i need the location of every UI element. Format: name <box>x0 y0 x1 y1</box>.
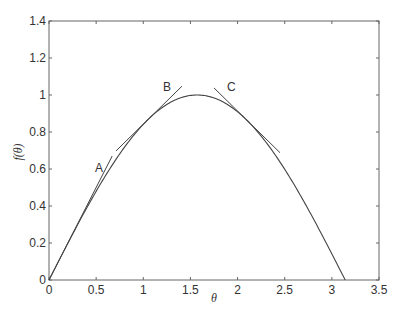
plot-area: 00.511.522.533.500.20.40.60.811.21.4 <box>29 14 387 297</box>
y-tick-label: 0.4 <box>29 199 46 213</box>
sine-curve <box>49 95 345 280</box>
x-tick-label: 2 <box>234 283 241 297</box>
y-tick-label: 0.8 <box>29 125 46 139</box>
y-tick-label: 1 <box>39 88 46 102</box>
x-tick-label: 1 <box>140 283 147 297</box>
tangent-line-c <box>214 88 280 153</box>
x-tick-label: 3.5 <box>371 283 388 297</box>
sine-tangent-chart: 00.511.522.533.500.20.40.60.811.21.4 θ f… <box>0 0 404 322</box>
x-tick-label: 2.5 <box>276 283 293 297</box>
annotation-b: B <box>163 80 171 94</box>
plot-frame <box>49 21 379 280</box>
y-tick-label: 0 <box>39 273 46 287</box>
x-tick-label: 1.5 <box>182 283 199 297</box>
y-axis-label: f(θ) <box>11 143 25 160</box>
y-tick-label: 1.4 <box>29 14 46 28</box>
annotation-a: A <box>95 161 103 175</box>
x-tick-label: 0 <box>46 283 53 297</box>
x-axis-label: θ <box>211 291 217 305</box>
annotation-c: C <box>227 80 236 94</box>
y-tick-label: 0.6 <box>29 162 46 176</box>
tangent-line-b <box>116 86 182 151</box>
x-tick-label: 0.5 <box>88 283 105 297</box>
x-tick-label: 3 <box>329 283 336 297</box>
y-tick-label: 1.2 <box>29 51 46 65</box>
y-tick-label: 0.2 <box>29 236 46 250</box>
